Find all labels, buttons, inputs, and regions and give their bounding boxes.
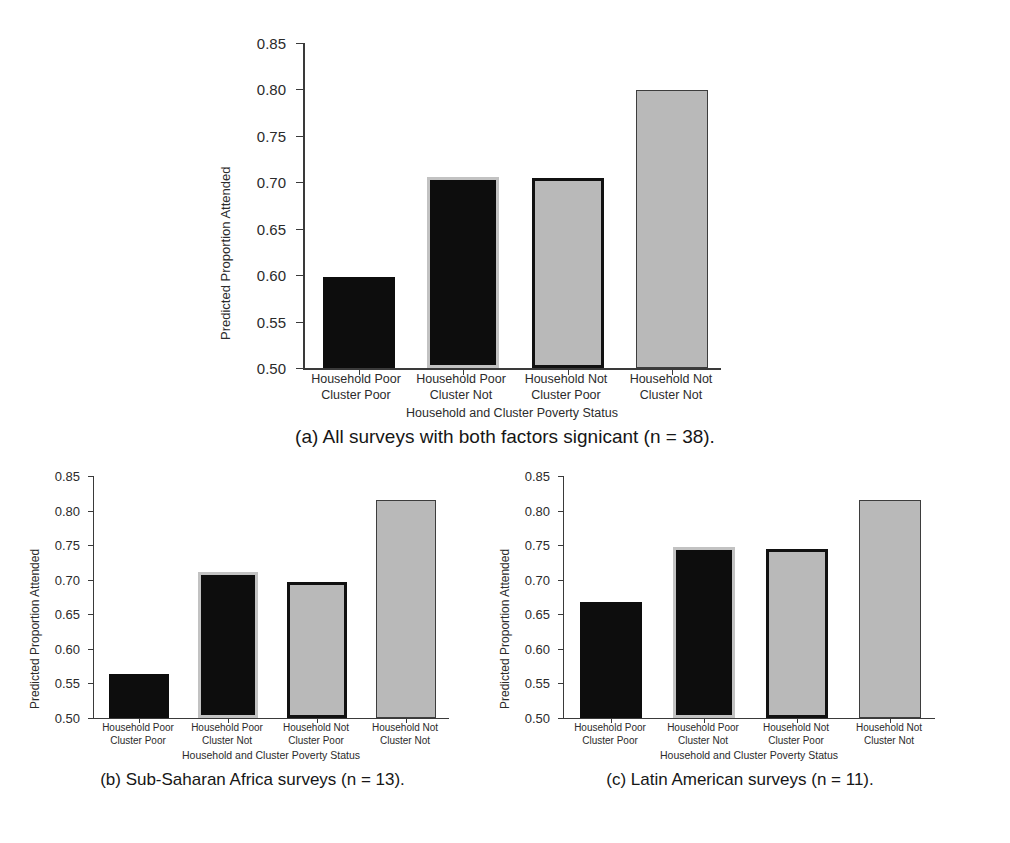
x-tickmark-c-3: [890, 718, 891, 723]
bar-a-0: [323, 277, 395, 368]
y-tick-c-1: 0.80: [498, 503, 550, 518]
x-tickmark-b-3: [406, 718, 407, 723]
x-tickmark-c-2: [797, 718, 798, 723]
bar-a-3: [636, 90, 708, 368]
x-tickmark-c-1: [704, 718, 705, 723]
bar-b-3: [376, 500, 436, 718]
x-tick-label-a-2: Household Not Cluster Poor: [510, 372, 622, 403]
x-tick-label-a-0: Household Poor Cluster Poor: [300, 372, 412, 403]
bar-c-1: [673, 547, 735, 718]
y-tick-a-1: 0.80: [226, 81, 286, 98]
x-axis-label-c: Household and Cluster Poverty Status: [563, 749, 935, 761]
x-axis-line-c: [563, 718, 935, 719]
bar-c-3: [859, 500, 921, 718]
x-tickmark-c-0: [611, 718, 612, 723]
y-tick-a-4: 0.65: [226, 220, 286, 237]
y-tick-b-1: 0.80: [28, 503, 80, 518]
panel-c-caption: (c) Latin American surveys (n = 11).: [470, 770, 1010, 790]
y-tick-c-7: 0.50: [498, 711, 550, 726]
x-tick-label-a-1: Household Poor Cluster Not: [405, 372, 517, 403]
y-tickmark-a-7: [296, 368, 303, 369]
y-tick-c-4: 0.65: [498, 607, 550, 622]
x-axis-label-a: Household and Cluster Poverty Status: [303, 406, 721, 420]
y-tick-b-6: 0.55: [28, 676, 80, 691]
x-tick-label-b-2: Household Not Cluster Poor: [270, 722, 362, 747]
x-tick-label-b-0: Household Poor Cluster Poor: [92, 722, 184, 747]
bar-b-1: [198, 572, 258, 718]
y-tick-c-3: 0.70: [498, 572, 550, 587]
panel-a-caption: (a) All surveys with both factors signic…: [0, 426, 1010, 448]
y-tick-c-6: 0.55: [498, 676, 550, 691]
y-tick-c-0: 0.85: [498, 469, 550, 484]
x-tick-label-a-3: Household Not Cluster Not: [615, 372, 727, 403]
y-tick-b-5: 0.60: [28, 641, 80, 656]
y-tick-a-7: 0.50: [226, 360, 286, 377]
y-tickmark-a-4: [296, 229, 303, 230]
y-tickmark-a-3: [296, 182, 303, 183]
figure-panel-a: Predicted Proportion Attended 0.850.800.…: [0, 0, 1010, 455]
y-tick-a-2: 0.75: [226, 127, 286, 144]
x-tick-label-c-3: Household Not Cluster Not: [841, 722, 937, 747]
x-tickmark-b-1: [228, 718, 229, 723]
x-tickmark-a-3: [672, 368, 673, 375]
y-tick-a-6: 0.55: [226, 313, 286, 330]
y-tick-b-7: 0.50: [28, 711, 80, 726]
x-axis-line-a: [303, 368, 721, 370]
y-tick-b-0: 0.85: [28, 469, 80, 484]
bar-c-2: [766, 549, 828, 718]
y-tick-c-5: 0.60: [498, 641, 550, 656]
figure-panel-b: Predicted Proportion Attended 0.850.800.…: [0, 455, 505, 843]
y-tickmark-a-0: [296, 43, 303, 44]
x-axis-label-b: Household and Cluster Poverty Status: [93, 749, 449, 761]
x-tick-label-c-2: Household Not Cluster Poor: [748, 722, 844, 747]
y-tick-a-5: 0.60: [226, 267, 286, 284]
x-tickmark-a-1: [463, 368, 464, 375]
x-tick-label-c-0: Household Poor Cluster Poor: [562, 722, 658, 747]
y-tick-b-4: 0.65: [28, 607, 80, 622]
y-tick-b-3: 0.70: [28, 572, 80, 587]
bar-a-2: [532, 178, 604, 368]
y-tickmark-a-1: [296, 89, 303, 90]
y-tickmark-a-2: [296, 136, 303, 137]
bar-c-0: [580, 602, 642, 718]
x-tick-label-b-3: Household Not Cluster Not: [359, 722, 451, 747]
y-tick-c-2: 0.75: [498, 538, 550, 553]
panel-b-caption: (b) Sub-Saharan Africa surveys (n = 13).: [0, 770, 505, 790]
x-tickmark-a-0: [359, 368, 360, 375]
x-tickmark-b-0: [139, 718, 140, 723]
bar-b-0: [109, 674, 169, 718]
y-tick-b-2: 0.75: [28, 538, 80, 553]
x-tick-label-c-1: Household Poor Cluster Not: [655, 722, 751, 747]
y-tick-a-0: 0.85: [226, 35, 286, 52]
y-tickmark-a-6: [296, 322, 303, 323]
x-tickmark-b-2: [317, 718, 318, 723]
bar-a-1: [427, 177, 499, 368]
x-tickmark-a-2: [568, 368, 569, 375]
x-axis-line-b: [93, 718, 449, 719]
x-tick-label-b-1: Household Poor Cluster Not: [181, 722, 273, 747]
y-tickmark-a-5: [296, 275, 303, 276]
bar-b-2: [287, 582, 347, 718]
y-tick-a-3: 0.70: [226, 174, 286, 191]
figure-panel-c: Predicted Proportion Attended 0.850.800.…: [470, 455, 1010, 843]
